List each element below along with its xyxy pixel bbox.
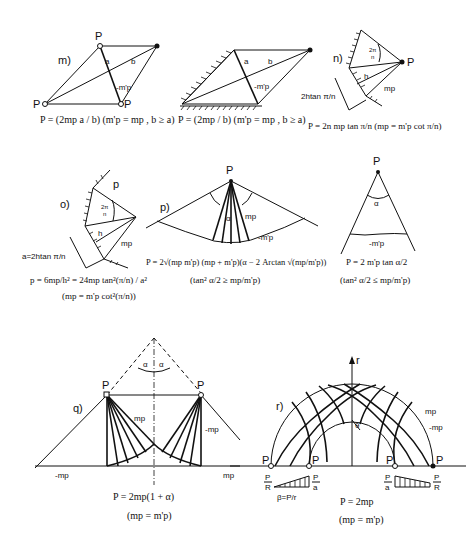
svg-text:α: α bbox=[159, 360, 164, 369]
svg-text:P: P bbox=[33, 98, 40, 110]
svg-text:P: P bbox=[197, 379, 204, 391]
svg-text:P: P bbox=[373, 155, 380, 167]
svg-text:P: P bbox=[312, 454, 319, 466]
svg-text:-m'p: -m'p bbox=[254, 82, 270, 91]
panel-m: P P P m) a b -m'p bbox=[33, 30, 160, 110]
caption-p: P = 2√(mp m'p) (mp + m'p)(α − 2 Arctan √… bbox=[146, 258, 326, 267]
caption-o: p = 6mp/h² = 24mp tan²(π/n) / a² bbox=[30, 276, 147, 286]
svg-text:P: P bbox=[385, 473, 390, 482]
svg-text:a: a bbox=[385, 483, 390, 492]
caption-q: P = 2mp(1 + α) bbox=[113, 491, 174, 502]
svg-text:2π: 2π bbox=[101, 204, 108, 210]
caption-r: P = 2mp bbox=[340, 496, 374, 507]
svg-text:P: P bbox=[124, 98, 131, 110]
svg-text:-m'p: -m'p bbox=[116, 83, 132, 92]
svg-text:mp: mp bbox=[121, 239, 133, 248]
panel-m2: a b -m'p bbox=[180, 48, 313, 111]
svg-text:a=2htan π/n: a=2htan π/n bbox=[22, 252, 66, 261]
svg-text:R: R bbox=[434, 483, 440, 492]
caption-p-condition: (tan² α/2 ≥ mp/m'p) bbox=[190, 276, 260, 286]
caption-m: P = (2mp a / b) (m'p = mp , b ≥ a) bbox=[40, 114, 175, 125]
svg-text:P: P bbox=[407, 56, 414, 68]
svg-text:mp: mp bbox=[134, 414, 146, 423]
svg-text:n: n bbox=[103, 211, 106, 217]
svg-text:p): p) bbox=[160, 201, 170, 213]
svg-text:P: P bbox=[313, 473, 318, 482]
svg-text:p: p bbox=[113, 178, 119, 190]
svg-text:mp: mp bbox=[425, 407, 437, 416]
svg-text:q): q) bbox=[73, 402, 83, 414]
caption-r-condition: (mp = m'p) bbox=[339, 514, 384, 525]
svg-text:P: P bbox=[262, 454, 269, 466]
panel-n: P n) 2π n h mp 2htan π/n bbox=[301, 30, 414, 110]
panel-o: p o) 2π n h mp a=2htan π/n bbox=[22, 170, 136, 268]
panel-r: r θ P P P P r) mp -mp bbox=[230, 354, 466, 502]
svg-text:h: h bbox=[98, 229, 102, 238]
svg-text:2π: 2π bbox=[369, 47, 376, 53]
svg-text:o): o) bbox=[60, 198, 70, 210]
svg-text:-mp: -mp bbox=[205, 425, 219, 434]
caption-p2: P = 2 m'p tan α/2 bbox=[346, 258, 407, 268]
svg-text:β=P/r: β=P/r bbox=[277, 493, 297, 502]
svg-text:α: α bbox=[226, 214, 231, 223]
svg-text:2htan π/n: 2htan π/n bbox=[301, 92, 335, 101]
svg-text:P: P bbox=[386, 454, 393, 466]
svg-text:-m'p: -m'p bbox=[369, 239, 385, 248]
svg-text:mp: mp bbox=[384, 84, 396, 93]
svg-text:-mp: -mp bbox=[429, 423, 443, 432]
caption-q-condition: (mp = m'p) bbox=[127, 510, 172, 521]
svg-text:a: a bbox=[244, 57, 249, 66]
svg-text:a: a bbox=[313, 483, 318, 492]
svg-text:-m'p: -m'p bbox=[258, 233, 274, 242]
svg-text:α: α bbox=[374, 199, 379, 208]
svg-text:mp: mp bbox=[245, 212, 257, 221]
caption-n: P = 2n mp tan π/n (mp = m'p cot π/n) bbox=[308, 122, 442, 132]
svg-text:r: r bbox=[356, 354, 360, 366]
caption-p2-condition: (tan² α/2 ≤ mp/m'p) bbox=[340, 276, 410, 286]
svg-text:P: P bbox=[226, 164, 233, 176]
yield-line-figure: P P P m) a b -m'p a b bbox=[0, 0, 466, 546]
svg-text:R: R bbox=[265, 483, 271, 492]
caption-o-condition: (mp = m'p cot²(π/n)) bbox=[62, 292, 136, 302]
panel-p: P p) α mp -m'p bbox=[146, 164, 318, 244]
svg-text:n): n) bbox=[333, 52, 343, 64]
svg-text:m): m) bbox=[58, 54, 71, 66]
svg-text:h: h bbox=[364, 72, 368, 81]
svg-text:θ: θ bbox=[355, 421, 360, 430]
svg-text:P: P bbox=[436, 454, 443, 466]
svg-text:α: α bbox=[143, 360, 148, 369]
svg-text:a: a bbox=[105, 57, 110, 66]
panel-q: P P q) α α mp -mp -mp mp bbox=[35, 338, 240, 485]
svg-text:mp: mp bbox=[223, 471, 235, 480]
svg-text:P: P bbox=[95, 30, 102, 42]
svg-text:-mp: -mp bbox=[55, 471, 69, 480]
svg-text:r): r) bbox=[276, 400, 283, 412]
svg-text:P: P bbox=[434, 473, 439, 482]
caption-m2: P = (2mp / b) (m'p = mp , b ≥ a) bbox=[178, 114, 306, 125]
svg-text:b: b bbox=[268, 57, 273, 66]
svg-text:P: P bbox=[102, 379, 109, 391]
panel-p2: P α -m'p bbox=[341, 155, 415, 254]
svg-text:n: n bbox=[371, 54, 374, 60]
svg-text:b: b bbox=[131, 57, 136, 66]
svg-text:P: P bbox=[265, 473, 270, 482]
